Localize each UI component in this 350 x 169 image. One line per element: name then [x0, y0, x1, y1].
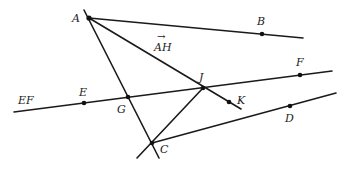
point-k [227, 100, 232, 105]
point-d [288, 104, 293, 109]
point-label-c: C [160, 143, 169, 156]
line-EF [14, 71, 332, 112]
ray-ah-label: AH [153, 41, 172, 54]
line-JC [137, 88, 203, 158]
point-b [260, 32, 265, 37]
point-a [86, 15, 91, 20]
point-label-a: A [71, 12, 80, 25]
labels: → AH EF [17, 31, 172, 107]
point-j [201, 86, 206, 91]
point-g [126, 95, 131, 100]
segments [14, 10, 336, 158]
point-label-g: G [117, 103, 126, 116]
point-f [298, 73, 303, 78]
ray-AB [89, 18, 303, 38]
point-label-e: E [78, 86, 87, 99]
point-label-j: J [197, 71, 204, 84]
point-e [82, 101, 87, 106]
line-AC [84, 10, 159, 158]
geometry-diagram: ABEFGJKDC → AH EF [0, 0, 350, 169]
point-label-k: K [236, 94, 246, 107]
point-label-f: F [295, 56, 304, 69]
point-c [150, 141, 155, 146]
points: ABEFGJKDC [71, 12, 304, 156]
point-label-d: D [284, 112, 294, 125]
point-label-b: B [256, 15, 265, 28]
line-ef-label: EF [17, 94, 34, 107]
